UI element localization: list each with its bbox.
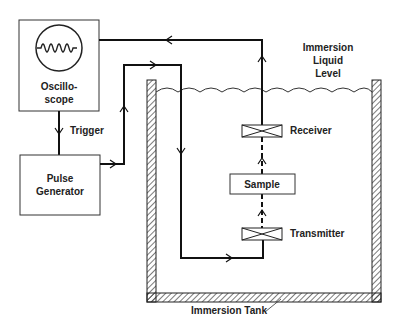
liquid-level-line xyxy=(156,88,372,92)
tank-label: Immersion Tank xyxy=(191,305,267,316)
liquid-level-label-1: Immersion xyxy=(303,42,354,53)
pulse-generator-label-2: Generator xyxy=(36,186,84,197)
trigger-label: Trigger xyxy=(70,125,104,136)
liquid-level-annotation: Immersion Liquid Level xyxy=(303,42,354,79)
transmitter-label: Transmitter xyxy=(290,228,345,239)
liquid-level-label-2: Liquid xyxy=(313,55,343,66)
pulse-generator-label-1: Pulse xyxy=(47,173,74,184)
receiver-label: Receiver xyxy=(290,125,332,136)
receiver-transducer: Receiver xyxy=(242,125,332,137)
pulse-generator-block: Pulse Generator xyxy=(20,155,100,215)
liquid-level-label-3: Level xyxy=(315,68,341,79)
transmit-signal-path xyxy=(100,61,263,262)
oscilloscope-label-2: scope xyxy=(45,94,74,105)
sample-block: Sample xyxy=(230,174,295,194)
transmitter-transducer: Transmitter xyxy=(242,228,345,240)
trigger-connection: Trigger xyxy=(55,111,104,155)
oscilloscope-label-1: Oscillo- xyxy=(41,81,78,92)
sample-label: Sample xyxy=(244,179,280,190)
oscilloscope-block: Oscillo- scope xyxy=(19,20,99,111)
diagram-canvas: Oscillo- scope Trigger Pulse Generator R… xyxy=(0,0,395,324)
